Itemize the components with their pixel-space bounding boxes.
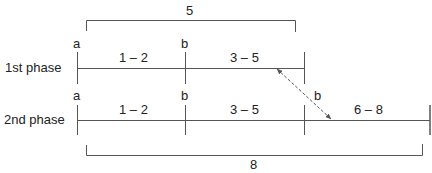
bottom-bracket-label: 8 [250, 158, 257, 172]
top-bracket-label: 5 [186, 4, 193, 18]
phase-1-segment-1: 1 – 2 [119, 51, 148, 65]
phase-1-segment-2: 3 – 5 [230, 51, 259, 65]
phase-2-segment-1: 1 – 2 [119, 103, 148, 117]
phase-diagram: 5 8 1st phase 2nd phase a b 1 – 2 3 – 5 … [0, 0, 432, 173]
phase-2-segment-2: 3 – 5 [230, 103, 259, 117]
phase-2-marker-a: a [73, 89, 80, 103]
phase-2-label: 2nd phase [4, 113, 65, 127]
phase-1-marker-b: b [181, 37, 188, 51]
shift-arrow-label: b [314, 89, 321, 103]
phase-1-timeline [77, 52, 305, 84]
phase-2-marker-b: b [181, 89, 188, 103]
top-bracket [87, 21, 296, 33]
phase-1-marker-a: a [73, 37, 80, 51]
phase-1-label: 1st phase [5, 61, 61, 75]
bottom-bracket [87, 144, 423, 156]
phase-2-segment-3: 6 – 8 [354, 103, 383, 117]
